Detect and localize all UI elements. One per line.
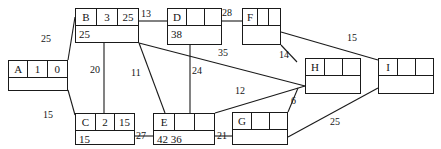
node-c-bottom-row: 15 <box>76 131 134 147</box>
node-b-cell-2: 25 <box>118 9 138 25</box>
node-b-bottom-row: 25 <box>76 26 138 42</box>
node-a-cell-1: 1 <box>28 61 47 77</box>
edge-label-e-h: 12 <box>235 86 245 96</box>
node-e-cell-1 <box>175 114 195 130</box>
edge-label-c-e: 27 <box>136 131 146 141</box>
edge-label-b-d: 13 <box>141 9 151 19</box>
node-a-cell-0: A <box>9 61 28 77</box>
edge-line-f-i <box>281 32 378 60</box>
node-f-bottom-row <box>243 26 280 42</box>
edge-label-f-i: 15 <box>347 33 357 43</box>
edge-label-e-g: 21 <box>217 131 227 141</box>
node-h-top-row: H <box>306 59 360 76</box>
node-c-cell-2: 15 <box>115 114 134 130</box>
node-g[interactable]: G <box>232 112 288 145</box>
node-f-cell-1 <box>258 9 269 25</box>
node-i-cell-1 <box>398 59 416 75</box>
node-e-bottom-row: 42 36 <box>154 131 214 147</box>
edge-label-d-f: 28 <box>222 8 232 18</box>
node-f[interactable]: F <box>242 8 281 45</box>
node-d-cell-0: D <box>168 9 187 25</box>
node-g-cell-0: G <box>233 113 252 129</box>
node-a-top-row: A 1 0 <box>9 61 67 78</box>
edge-label-a-b: 25 <box>41 34 51 44</box>
edge-line-a-c <box>68 90 75 115</box>
node-d[interactable]: D 38 <box>167 8 222 45</box>
node-d-cell-2 <box>205 9 221 25</box>
edge-label-h-g: 6 <box>291 96 296 106</box>
node-i-cell-0: I <box>379 59 398 75</box>
diagram-canvas: A 1 0 B 3 25 25 D 38 F H <box>0 0 441 149</box>
node-h-bottom-row <box>306 76 360 92</box>
edge-label-d-e: 24 <box>192 66 202 76</box>
node-e-top-row: E <box>154 114 214 131</box>
node-d-cell-1 <box>187 9 205 25</box>
node-c-cell-1: 2 <box>96 114 115 130</box>
node-g-cell-1 <box>252 113 270 129</box>
edge-line-b-e <box>139 43 165 113</box>
edge-label-f-h: 14 <box>279 50 289 60</box>
edge-label-a-c: 15 <box>43 110 53 120</box>
node-a[interactable]: A 1 0 <box>8 60 68 91</box>
node-h-cell-1 <box>325 59 343 75</box>
node-i[interactable]: I <box>378 58 434 94</box>
node-d-top-row: D <box>168 9 221 26</box>
node-g-top-row: G <box>233 113 287 130</box>
node-g-bottom-row <box>233 130 287 146</box>
node-i-top-row: I <box>379 59 433 76</box>
node-g-cell-2 <box>270 113 287 129</box>
node-i-bottom-row <box>379 76 433 92</box>
node-a-bottom-row <box>9 78 67 94</box>
node-i-cell-2 <box>416 59 433 75</box>
edge-label-b-h: 35 <box>218 48 228 58</box>
node-b[interactable]: B 3 25 25 <box>75 8 139 43</box>
edge-line-a-b <box>68 17 75 60</box>
node-h[interactable]: H <box>305 58 361 94</box>
node-d-bottom-row: 38 <box>168 26 221 42</box>
node-c[interactable]: C 2 15 15 <box>75 113 135 145</box>
node-c-cell-0: C <box>76 114 96 130</box>
node-b-cell-1: 3 <box>97 9 118 25</box>
node-e-cell-0: E <box>154 114 175 130</box>
edge-label-b-c: 20 <box>90 65 100 75</box>
node-e-cell-2 <box>195 114 214 130</box>
node-h-cell-2 <box>343 59 360 75</box>
edge-line-g-i <box>288 88 378 137</box>
node-f-top-row: F <box>243 9 280 26</box>
node-a-cell-2: 0 <box>48 61 67 77</box>
node-c-top-row: C 2 15 <box>76 114 134 131</box>
node-e[interactable]: E 42 36 <box>153 113 215 145</box>
node-f-cell-2 <box>269 9 280 25</box>
node-h-cell-0: H <box>306 59 325 75</box>
node-f-cell-0: F <box>243 9 258 25</box>
node-b-cell-0: B <box>76 9 97 25</box>
edge-label-b-e: 11 <box>131 68 141 78</box>
edge-label-g-i: 25 <box>330 117 340 127</box>
node-b-top-row: B 3 25 <box>76 9 138 26</box>
